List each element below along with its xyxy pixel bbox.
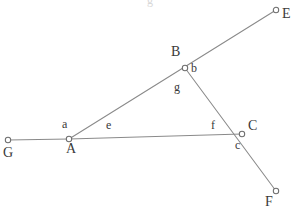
point-e-marker[interactable] (273, 7, 278, 12)
point-g-marker[interactable] (5, 137, 10, 142)
segment-a-to-c (69, 134, 242, 139)
point-label-e: E (282, 7, 291, 21)
geometry-figure: GABCEFabcefgg (0, 0, 296, 213)
segment-a-through-b-to-e (69, 10, 276, 139)
angle-label-b: b (191, 62, 197, 74)
point-label-c: C (248, 119, 257, 133)
segment-b-through-c-to-f (185, 68, 276, 191)
vertices-layer (5, 7, 278, 193)
point-b-marker[interactable] (182, 65, 187, 70)
angle-label-c: c (235, 139, 240, 151)
point-label-g: G (3, 146, 13, 160)
angle-label-a: a (62, 118, 67, 130)
artifact-top-clipped-glyph: g (147, 0, 153, 6)
point-c-marker[interactable] (239, 131, 244, 136)
segments-layer (8, 10, 276, 191)
segment-g-to-a (8, 139, 69, 140)
side-label-g: g (174, 81, 180, 93)
side-label-f: f (211, 119, 215, 131)
figure-canvas (0, 0, 296, 213)
point-label-f: F (265, 195, 273, 209)
point-label-b: B (171, 45, 180, 59)
point-label-a: A (66, 142, 76, 156)
point-f-marker[interactable] (273, 188, 278, 193)
side-label-e: e (106, 119, 111, 131)
